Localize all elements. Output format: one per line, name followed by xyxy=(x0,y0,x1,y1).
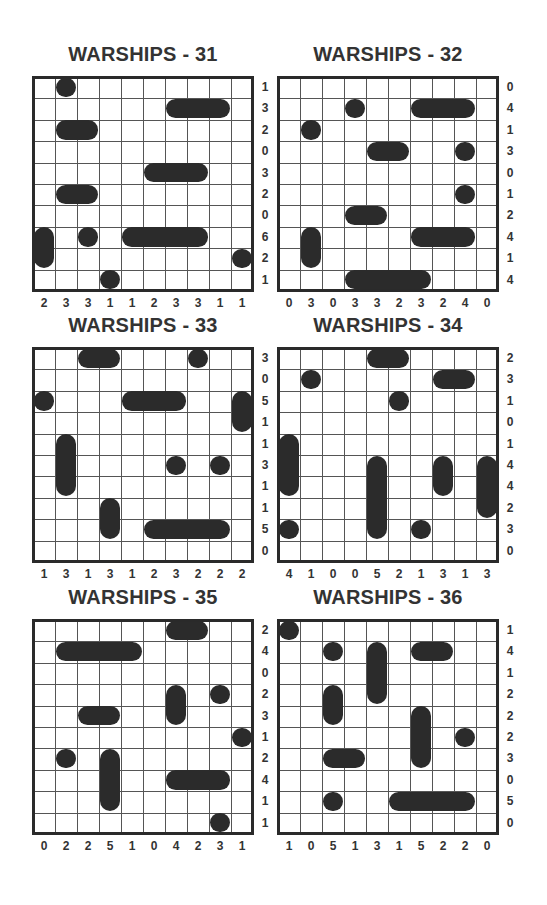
puzzle-grid[interactable] xyxy=(277,347,499,563)
ship-length-2 xyxy=(433,456,453,497)
ship-length-3 xyxy=(122,391,186,410)
row-clue: 4 xyxy=(503,230,517,244)
column-clue: 4 xyxy=(165,839,187,853)
row-clue: 3 xyxy=(258,458,272,472)
puzzle-grid[interactable] xyxy=(32,347,254,563)
ship-submarine xyxy=(301,120,321,139)
column-clue: 3 xyxy=(77,296,99,310)
grid-line xyxy=(35,498,251,499)
puzzle-title: WARSHIPS - 33 xyxy=(33,314,253,337)
puzzle-title: WARSHIPS - 31 xyxy=(33,43,253,66)
ship-length-2 xyxy=(166,621,208,640)
column-clue: 1 xyxy=(410,567,432,581)
row-clue: 3 xyxy=(258,101,272,115)
row-clue: 2 xyxy=(258,123,272,137)
ship-length-2 xyxy=(367,349,409,368)
column-clue: 1 xyxy=(344,839,366,853)
ship-submarine xyxy=(455,142,475,161)
grid-line xyxy=(35,541,251,542)
ship-submarine xyxy=(232,249,252,268)
ship-submarine xyxy=(279,621,299,640)
ship-length-2 xyxy=(323,749,365,768)
column-clue: 3 xyxy=(366,839,388,853)
column-clue: 2 xyxy=(33,296,55,310)
grid-line xyxy=(35,791,251,792)
column-clue: 1 xyxy=(209,296,231,310)
ship-length-3 xyxy=(411,227,475,246)
ship-length-2 xyxy=(301,227,321,268)
ship-length-2 xyxy=(411,642,453,661)
row-clue: 3 xyxy=(258,166,272,180)
row-clue: 0 xyxy=(503,80,517,94)
row-clue: 1 xyxy=(503,437,517,451)
row-clue: 5 xyxy=(503,794,517,808)
column-clue: 3 xyxy=(165,567,187,581)
column-clue: 1 xyxy=(121,567,143,581)
row-clue: 3 xyxy=(503,372,517,386)
grid-line xyxy=(35,205,251,206)
row-clue: 1 xyxy=(258,415,272,429)
column-clue: 0 xyxy=(278,296,300,310)
row-clue: 0 xyxy=(503,544,517,558)
ship-length-4 xyxy=(367,456,387,540)
column-clue: 0 xyxy=(300,839,322,853)
row-clue: 0 xyxy=(258,372,272,386)
column-clue: 4 xyxy=(278,567,300,581)
row-clue: 2 xyxy=(503,709,517,723)
column-clue: 2 xyxy=(432,296,454,310)
row-clue: 4 xyxy=(503,458,517,472)
ship-length-2 xyxy=(367,142,409,161)
puzzle-grid[interactable] xyxy=(32,619,254,835)
column-clue: 3 xyxy=(187,296,209,310)
puzzle-title: WARSHIPS - 34 xyxy=(278,314,498,337)
puzzle-grid[interactable] xyxy=(277,619,499,835)
row-clue: 0 xyxy=(503,816,517,830)
ship-submarine xyxy=(232,728,252,747)
puzzle-grid[interactable] xyxy=(32,76,254,292)
ship-length-4 xyxy=(122,227,208,246)
grid-line xyxy=(280,770,496,771)
ship-length-2 xyxy=(232,391,252,432)
row-clue: 1 xyxy=(258,273,272,287)
column-clue: 1 xyxy=(278,839,300,853)
ship-submarine xyxy=(56,78,76,97)
grid-line xyxy=(280,476,496,477)
ship-length-3 xyxy=(144,163,208,182)
row-clue: 1 xyxy=(503,623,517,637)
column-clue: 2 xyxy=(187,567,209,581)
ship-length-2 xyxy=(433,370,475,389)
row-clue: 4 xyxy=(503,479,517,493)
grid-line xyxy=(280,519,496,520)
column-clue: 1 xyxy=(121,296,143,310)
row-clue: 1 xyxy=(503,394,517,408)
column-clue: 1 xyxy=(231,839,253,853)
column-clue: 2 xyxy=(388,296,410,310)
ship-submarine xyxy=(411,520,431,539)
column-clue: 2 xyxy=(209,567,231,581)
grid-line xyxy=(476,350,477,560)
row-clue: 2 xyxy=(258,251,272,265)
column-clue: 3 xyxy=(165,296,187,310)
puzzle-grid[interactable] xyxy=(277,76,499,292)
column-clue: 2 xyxy=(143,567,165,581)
row-clue: 2 xyxy=(503,730,517,744)
grid-line xyxy=(476,622,477,832)
puzzle-title: WARSHIPS - 35 xyxy=(33,586,253,609)
row-clue: 1 xyxy=(503,123,517,137)
grid-line xyxy=(280,455,496,456)
row-clue: 1 xyxy=(258,730,272,744)
grid-line xyxy=(476,79,477,289)
row-clue: 1 xyxy=(503,187,517,201)
puzzle-title: WARSHIPS - 36 xyxy=(278,586,498,609)
column-clue: 4 xyxy=(454,296,476,310)
ship-submarine xyxy=(455,728,475,747)
column-clue: 2 xyxy=(432,839,454,853)
row-clue: 3 xyxy=(503,144,517,158)
ship-submarine xyxy=(455,185,475,204)
column-clue: 0 xyxy=(322,567,344,581)
ship-length-2 xyxy=(345,206,387,225)
row-clue: 1 xyxy=(258,794,272,808)
ship-length-3 xyxy=(367,642,387,704)
grid-line xyxy=(280,748,496,749)
grid-line xyxy=(280,205,496,206)
